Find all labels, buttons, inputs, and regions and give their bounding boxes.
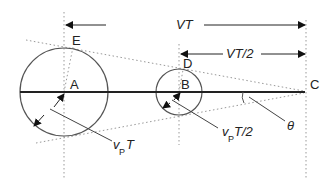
leader-line-theta: [249, 97, 285, 121]
radius-arrow-a-out: [54, 94, 64, 107]
label-theta: θ: [287, 118, 294, 133]
label-vp-t-sub: P: [119, 147, 125, 157]
geometry-diagram: E A D B C VT VT/2 v P T v P T/2 θ: [0, 0, 331, 183]
label-vt: VT: [176, 17, 194, 32]
theta-arc: [242, 92, 244, 103]
leader-line-b: [172, 100, 218, 128]
label-a: A: [70, 77, 79, 92]
diagram-canvas: E A D B C VT VT/2 v P T v P T/2 θ: [0, 0, 331, 183]
label-d: D: [183, 56, 192, 71]
tangent-line-lower: [36, 93, 304, 143]
radius-arrow-b-in: [163, 103, 170, 108]
label-e: E: [72, 33, 81, 48]
label-c: C: [310, 77, 319, 92]
radius-arrow-a-in: [34, 115, 44, 126]
label-vt-half: VT/2: [226, 46, 254, 61]
label-vp-t-rest: T: [126, 137, 135, 152]
label-b: B: [181, 77, 190, 92]
label-vp-t2-rest: T/2: [234, 124, 254, 139]
